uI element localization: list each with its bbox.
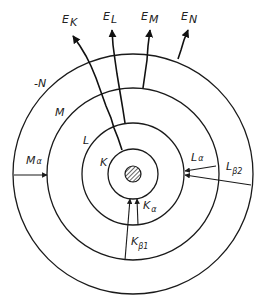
label-ek: EK bbox=[62, 13, 78, 29]
emission-el-arrow bbox=[112, 30, 125, 123]
transition-l-alpha-arrow bbox=[185, 166, 216, 171]
label-shell-k: K bbox=[100, 156, 108, 169]
atom-diagram: EK EL EM EN -N M L K Mα Lα Lβ2 Kα Kβ1 bbox=[0, 0, 267, 307]
label-em: EM bbox=[141, 10, 159, 26]
label-k-alpha: Kα bbox=[143, 199, 157, 214]
emission-en-arrow bbox=[178, 30, 188, 59]
label-m-alpha: Mα bbox=[26, 154, 43, 167]
nucleus bbox=[125, 166, 141, 182]
label-l-alpha: Lα bbox=[191, 151, 204, 164]
label-shell-m: M bbox=[55, 106, 65, 119]
label-shell-n: -N bbox=[34, 77, 46, 90]
label-en: EN bbox=[181, 10, 197, 26]
emission-em-arrow bbox=[143, 30, 150, 88]
label-shell-l: L bbox=[83, 134, 89, 147]
transition-k-beta1-arrow bbox=[125, 199, 130, 260]
label-el: EL bbox=[103, 10, 117, 26]
label-k-beta1: Kβ1 bbox=[131, 235, 148, 251]
label-l-beta2: Lβ2 bbox=[226, 160, 242, 176]
transition-k-alpha-arrow bbox=[137, 199, 138, 225]
